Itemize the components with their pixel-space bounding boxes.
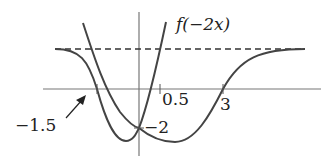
label-0-5: 0.5 bbox=[162, 91, 189, 108]
curve-f-x bbox=[83, 23, 305, 142]
label-neg-1-5: −1.5 bbox=[15, 117, 56, 134]
label-neg-2: −2 bbox=[144, 119, 169, 136]
arrow-head-icon bbox=[76, 95, 86, 105]
label-3: 3 bbox=[220, 96, 231, 113]
arrow-line bbox=[66, 100, 82, 118]
graph-canvas bbox=[0, 0, 321, 166]
curve-label: f(−2x) bbox=[176, 16, 230, 33]
function-graph: f(−2x) −1.5 0.5 3 −2 bbox=[0, 0, 321, 166]
